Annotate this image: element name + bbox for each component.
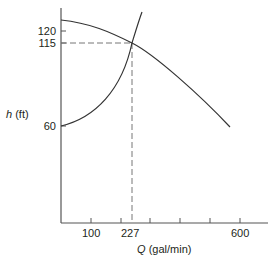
x-axis-unit: (gal/min) [149,243,192,255]
y-tick-label-120: 120 [32,26,56,37]
y-tick-label-115: 115 [32,38,56,49]
x-tick-label-100: 100 [82,228,100,239]
y-axis-label: h (ft) [6,109,29,120]
y-tick-label-60: 60 [32,121,56,132]
y-axis-var: h [6,108,12,120]
x-axis-var: Q [137,243,146,255]
pump-curve [61,20,230,127]
x-axis-label: Q (gal/min) [137,244,191,255]
x-tick-label-227: 227 [121,228,139,239]
y-axis-unit: (ft) [15,108,28,120]
x-tick-label-600: 600 [231,228,249,239]
